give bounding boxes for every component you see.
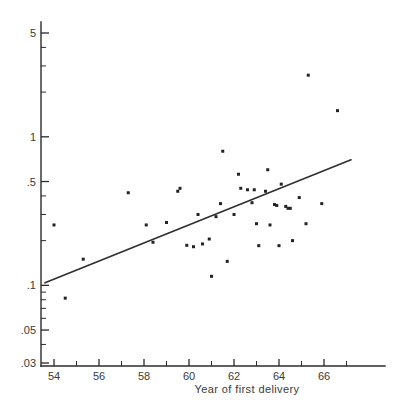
data-point <box>64 297 67 300</box>
x-tick-label: 56 <box>93 370 105 382</box>
scatter-plot-figure: 51.5.1.05.03 54565860626466 Year of firs… <box>0 0 397 407</box>
data-point <box>280 183 283 186</box>
y-tick-label: .03 <box>21 357 36 369</box>
data-point <box>246 188 249 191</box>
data-point <box>291 239 294 242</box>
data-point <box>239 187 242 190</box>
data-point <box>266 168 269 171</box>
x-tick-label: 54 <box>48 370 60 382</box>
data-point <box>336 109 339 112</box>
data-point <box>201 242 204 245</box>
data-point <box>179 187 182 190</box>
data-point <box>278 244 281 247</box>
data-point <box>298 196 301 199</box>
x-tick-label: 58 <box>138 370 150 382</box>
data-points <box>53 74 340 300</box>
data-point <box>320 202 323 205</box>
data-point <box>305 222 308 225</box>
data-point <box>53 223 56 226</box>
data-point <box>165 221 168 224</box>
y-tick-label: .1 <box>27 279 36 291</box>
data-point <box>210 275 213 278</box>
data-point <box>192 245 195 248</box>
data-point <box>219 202 222 205</box>
data-point <box>251 201 254 204</box>
data-point <box>215 215 218 218</box>
y-axis: 51.5.1.05.03 <box>21 22 49 369</box>
data-point <box>307 74 310 77</box>
y-tick-label: 5 <box>30 27 36 39</box>
y-tick-label: 1 <box>30 131 36 143</box>
data-point <box>152 241 155 244</box>
x-axis: 54565860626466 <box>41 359 385 382</box>
data-point <box>289 207 292 210</box>
data-point <box>176 190 179 193</box>
regression-line <box>45 160 351 283</box>
data-point <box>127 191 130 194</box>
data-point <box>269 223 272 226</box>
data-point <box>253 188 256 191</box>
data-point <box>197 213 200 216</box>
x-axis-title: Year of first delivery <box>195 383 300 395</box>
data-point <box>226 260 229 263</box>
data-point <box>275 204 278 207</box>
plot-canvas: 51.5.1.05.03 54565860626466 Year of firs… <box>0 0 397 407</box>
fit-line-segment <box>45 160 351 283</box>
x-tick-label: 62 <box>228 370 240 382</box>
data-point <box>145 223 148 226</box>
x-tick-label: 64 <box>273 370 285 382</box>
x-tick-label: 66 <box>318 370 330 382</box>
y-tick-label: .5 <box>27 176 36 188</box>
y-tick-label: .05 <box>21 324 36 336</box>
data-point <box>257 244 260 247</box>
data-point <box>237 173 240 176</box>
x-tick-label: 60 <box>183 370 195 382</box>
data-point <box>208 238 211 241</box>
data-point <box>221 150 224 153</box>
data-point <box>233 213 236 216</box>
data-point <box>82 258 85 261</box>
data-point <box>255 222 258 225</box>
data-point <box>264 190 267 193</box>
data-point <box>185 244 188 247</box>
